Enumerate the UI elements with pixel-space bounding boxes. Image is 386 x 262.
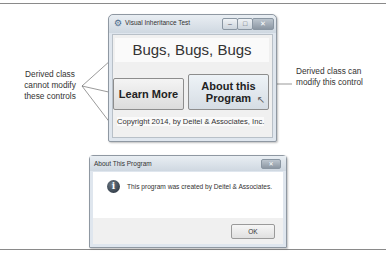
annotation-left-line1: Derived class (25, 69, 75, 79)
close-button[interactable]: ✕ (252, 18, 274, 30)
annotation-left-line3: these controls (24, 91, 76, 101)
annotation-can-modify: Derived class can modify this control (296, 66, 386, 88)
info-icon: i (107, 180, 120, 193)
dialog-body: i This program was created by Deitel & A… (93, 172, 283, 218)
annotation-right-line1: Derived class can (296, 66, 361, 76)
minimize-button[interactable]: – (222, 18, 238, 30)
annotation-left-line2: cannot modify (24, 80, 76, 90)
title-bar[interactable]: ⚙ Visual Inheritance Test – □ ✕ (109, 15, 276, 33)
dialog-message: This program was created by Deitel & Ass… (127, 183, 272, 190)
dialog-title-bar[interactable]: About This Program ✕ (90, 156, 286, 171)
dialog-title: About This Program (94, 160, 152, 167)
about-label-line2: Program (206, 92, 251, 104)
about-dialog: About This Program ✕ i This program was … (89, 155, 287, 248)
main-window: ⚙ Visual Inheritance Test – □ ✕ Bugs, Bu… (108, 14, 277, 142)
mouse-cursor-icon: ↖ (257, 94, 265, 105)
bugs-heading-label: Bugs, Bugs, Bugs (115, 38, 269, 62)
learn-more-button[interactable]: Learn More (113, 78, 184, 110)
ok-button[interactable]: OK (231, 224, 275, 239)
annotation-cannot-modify: Derived class cannot modify these contro… (20, 69, 80, 102)
app-icon: ⚙ (114, 19, 123, 28)
about-label-line1: About this (201, 80, 255, 92)
learn-more-label: Learn More (119, 88, 178, 100)
about-program-label: About this Program (201, 80, 255, 104)
window-title: Visual Inheritance Test (125, 19, 190, 26)
form-client-area: Bugs, Bugs, Bugs Learn More About this P… (112, 34, 273, 138)
dialog-close-button[interactable]: ✕ (261, 159, 281, 169)
dialog-footer: OK (93, 218, 283, 244)
copyright-label: Copyright 2014, by Deitel & Associates, … (117, 117, 264, 126)
annotation-right-line2: modify this control (296, 77, 363, 87)
maximize-button[interactable]: □ (237, 18, 253, 30)
